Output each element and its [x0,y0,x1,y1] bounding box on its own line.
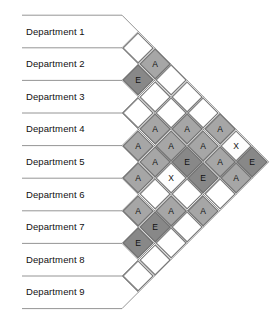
activity-relationship-chart: Department 1Department 2Department 3Depa… [0,0,278,321]
department-label-3: Department 3 [26,91,85,102]
department-label-2: Department 2 [26,58,85,69]
department-label-5: Department 5 [26,156,85,167]
department-label-6: Department 6 [26,189,85,200]
department-label-9: Department 9 [26,286,85,297]
department-label-4: Department 4 [26,123,85,134]
relationship-value [128,266,148,286]
department-label-8: Department 8 [26,254,85,265]
department-label-1: Department 1 [26,26,85,37]
department-label-7: Department 7 [26,221,85,232]
